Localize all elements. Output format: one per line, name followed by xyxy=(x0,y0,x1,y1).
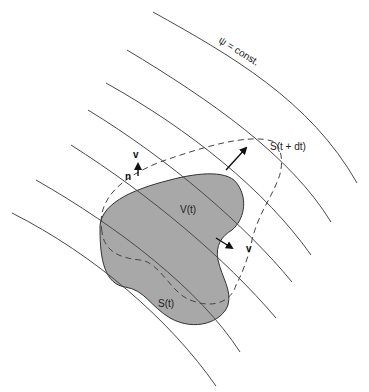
surface-t-label: S(t) xyxy=(158,298,174,309)
surface-t-dt-label: S(t + dt) xyxy=(270,141,306,152)
streamline-1 xyxy=(153,12,357,183)
volume-label: V(t) xyxy=(180,204,196,215)
velocity-label-right: v xyxy=(246,243,252,254)
diagram-canvas: ψ = const. V(t) S(t) S(t + dt) v n v xyxy=(0,0,369,392)
diagram-svg: ψ = const. V(t) S(t) S(t + dt) v n v xyxy=(0,0,369,392)
normal-label: n xyxy=(125,171,131,182)
velocity-label-top: v xyxy=(133,149,139,160)
outward-arrow-top xyxy=(226,148,246,170)
